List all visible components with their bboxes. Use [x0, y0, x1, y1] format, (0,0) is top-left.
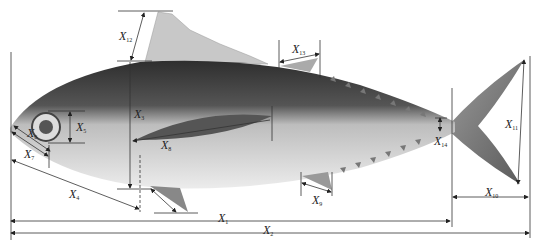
label-x9: X9 [312, 194, 322, 207]
label-sub: 6 [34, 134, 37, 140]
label-x11: X11 [505, 118, 518, 131]
fish-diagram: X1 X2 X3 X4 X5 X6 X7 X8 X9 X10 X11 X12 X… [0, 0, 537, 246]
label-x3: X3 [134, 108, 144, 121]
label-x14: X14 [434, 135, 447, 148]
label-sub: 11 [512, 125, 518, 131]
pelvic-fin [150, 186, 188, 212]
label-sub: 4 [76, 195, 79, 201]
label-sub: 13 [299, 50, 305, 56]
label-sub: 7 [31, 155, 34, 161]
label-sub: 14 [441, 142, 447, 148]
label-x12: X12 [119, 30, 132, 43]
label-sub: 2 [270, 231, 273, 237]
label-sub: 10 [492, 193, 498, 199]
label-sub: 1 [225, 219, 228, 225]
label-x7: X7 [24, 148, 34, 161]
label-x2: X2 [263, 224, 273, 237]
label-x6: X6 [27, 127, 37, 140]
dorsal-fin [145, 12, 268, 64]
label-x1: X1 [218, 212, 228, 225]
label-sub: 12 [126, 37, 132, 43]
label-sub: 3 [141, 115, 144, 121]
label-x8: X8 [161, 139, 171, 152]
label-sub: 5 [83, 128, 86, 134]
label-x10: X10 [485, 186, 498, 199]
label-x5: X5 [76, 121, 86, 134]
label-sub: 8 [168, 146, 171, 152]
label-sub: 9 [319, 201, 322, 207]
label-x4: X4 [69, 188, 79, 201]
label-x13: X13 [292, 43, 305, 56]
